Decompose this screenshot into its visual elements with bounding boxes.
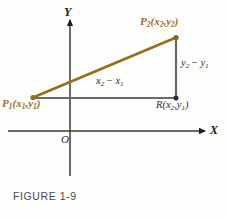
- r-x-name: x: [166, 99, 171, 110]
- dx-term1-subscript: 2: [101, 80, 105, 88]
- p2-x-name: x: [154, 15, 160, 27]
- dy-term1: y: [181, 57, 186, 68]
- origin-label: O: [61, 134, 69, 145]
- point-label-p2: P2(x2,y2): [140, 16, 178, 27]
- p2-paren-close: ): [175, 15, 179, 27]
- p1-y-subscript: 1: [33, 102, 37, 111]
- p1-x-subscript: 1: [22, 102, 26, 111]
- p2-y-subscript: 2: [171, 20, 175, 29]
- figure-caption: FIGURE 1-9: [13, 190, 77, 202]
- x-axis-label: X: [210, 124, 218, 136]
- point-label-p1: P1(x1,y1): [2, 98, 40, 109]
- point-marker-p2: [173, 35, 178, 40]
- dy-term2-subscript: 1: [205, 62, 209, 70]
- p1-paren-close: ): [37, 97, 41, 109]
- p1-x-name: x: [16, 97, 22, 109]
- p2-x-subscript: 2: [160, 20, 164, 29]
- y-axis-label: Y: [64, 6, 71, 18]
- r-paren-close: ): [185, 99, 189, 110]
- r-x-subscript: 2: [171, 104, 175, 112]
- p1-name: P: [2, 97, 9, 109]
- point-label-r: R(x2,y1): [156, 100, 189, 111]
- dx-term2-subscript: 1: [120, 80, 124, 88]
- horizontal-leg-label: x2 − x1: [96, 76, 124, 87]
- p1-subscript: 1: [9, 102, 13, 111]
- vertical-leg-label: y2 − y1: [181, 58, 209, 69]
- dx-term1: x: [96, 75, 101, 86]
- p2-subscript: 2: [147, 20, 151, 29]
- dy-term1-subscript: 2: [186, 62, 190, 70]
- hypotenuse-line: [33, 38, 176, 98]
- figure-container: P2(x2,y2) P1(x1,y1) R(x2,y1) x2 − x1 y2 …: [0, 0, 228, 218]
- p2-name: P: [140, 15, 147, 27]
- r-y-subscript: 1: [181, 104, 185, 112]
